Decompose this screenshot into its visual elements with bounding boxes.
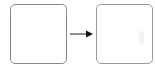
flow-arrow	[69, 28, 95, 40]
arrow-head-icon	[86, 31, 93, 38]
source-node-box	[10, 4, 67, 64]
target-node-box	[96, 4, 153, 64]
faint-mark	[139, 31, 144, 45]
